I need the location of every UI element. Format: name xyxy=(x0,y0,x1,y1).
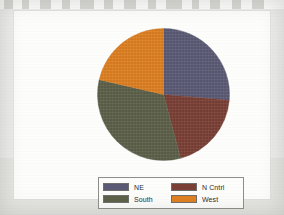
legend-swatch-n-cntrl xyxy=(171,183,197,191)
legend-swatch-west xyxy=(171,195,197,203)
chart-legend: NE N Cntrl South West xyxy=(98,177,244,209)
legend-entry-ne[interactable]: NE xyxy=(103,181,171,193)
scan-artifact-band xyxy=(0,0,284,9)
pie-chart-card: NE N Cntrl South West xyxy=(14,11,270,199)
legend-label-south: South xyxy=(134,195,153,204)
legend-swatch-ne xyxy=(103,183,129,191)
legend-label-ne: NE xyxy=(134,183,144,192)
pie-chart xyxy=(97,28,230,161)
legend-entry-south[interactable]: South xyxy=(103,193,171,205)
legend-entry-n-cntrl[interactable]: N Cntrl xyxy=(171,181,239,193)
legend-row: South West xyxy=(103,193,239,205)
legend-swatch-south xyxy=(103,195,129,203)
legend-label-n-cntrl: N Cntrl xyxy=(202,183,224,192)
pie-slice-ne[interactable] xyxy=(164,29,230,101)
legend-label-west: West xyxy=(202,195,218,204)
pie-svg xyxy=(97,28,230,161)
legend-entry-west[interactable]: West xyxy=(171,193,239,205)
legend-row: NE N Cntrl xyxy=(103,181,239,193)
plot-area xyxy=(14,11,270,161)
